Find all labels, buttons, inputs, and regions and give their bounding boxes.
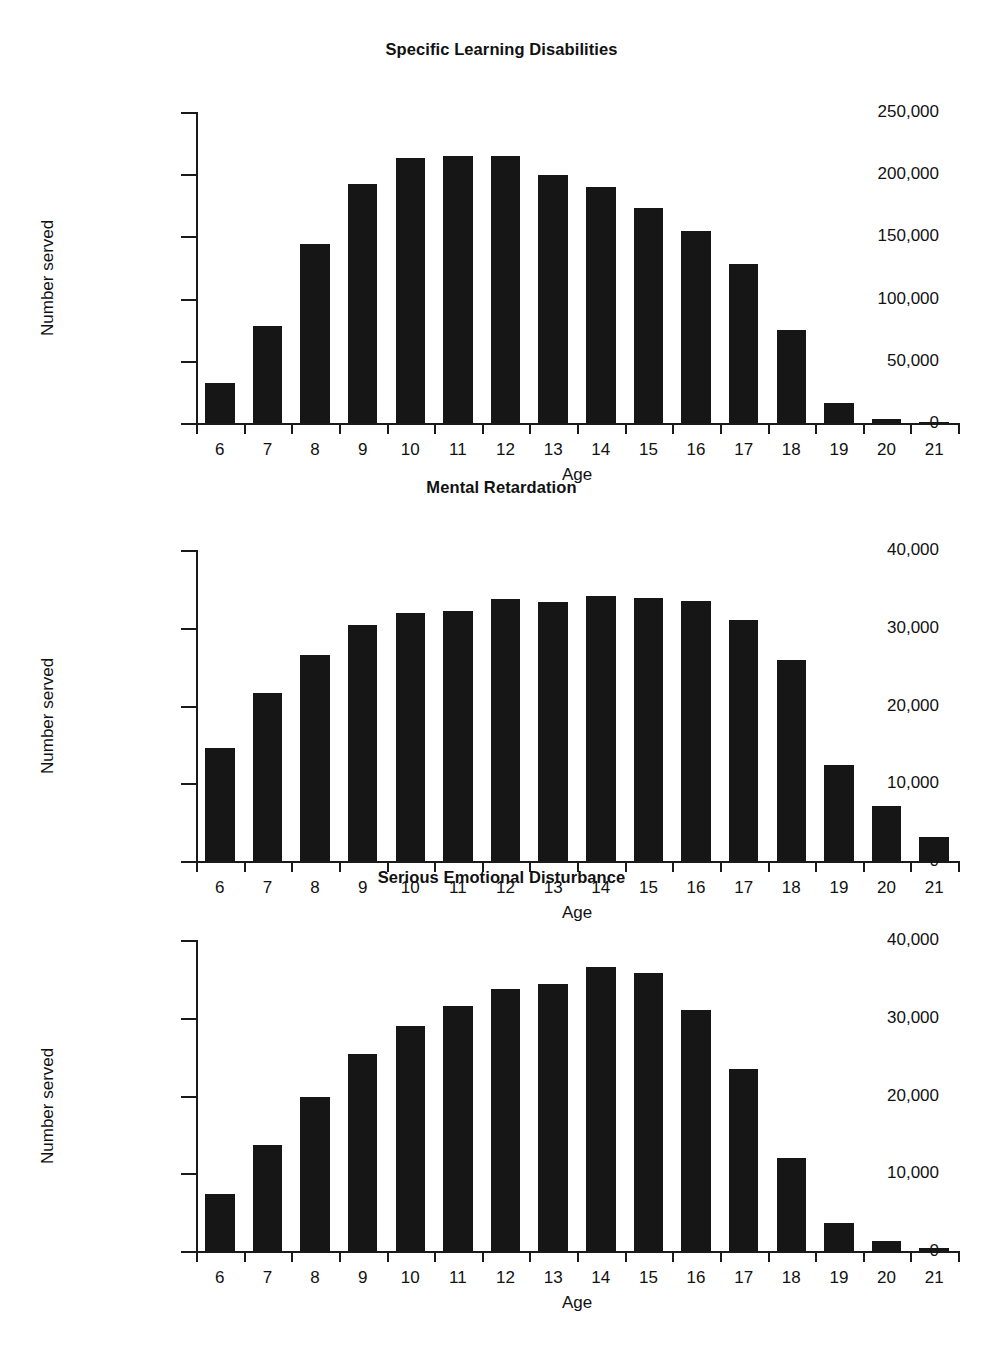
- bar: [872, 419, 902, 423]
- bar: [253, 693, 283, 861]
- x-axis-tick-label: 15: [639, 1268, 658, 1288]
- bars-layer: [196, 940, 958, 1251]
- bar: [681, 601, 711, 861]
- x-axis-tick: [244, 1251, 246, 1262]
- chart-title: Mental Retardation: [0, 478, 1003, 497]
- y-axis-tick: [181, 1096, 196, 1098]
- x-axis-tick: [720, 1251, 722, 1262]
- x-axis-tick-label: 10: [401, 440, 420, 460]
- x-axis-tick-label: 13: [544, 440, 563, 460]
- y-axis-label: Number served: [38, 1047, 58, 1163]
- x-axis-tick: [910, 423, 912, 434]
- y-axis-tick: [181, 236, 196, 238]
- bar: [586, 596, 616, 861]
- x-axis-tick-label: 8: [310, 440, 319, 460]
- x-axis-tick: [625, 423, 627, 434]
- x-axis-tick: [768, 423, 770, 434]
- x-axis-tick-label: 9: [358, 1268, 367, 1288]
- bar: [824, 403, 854, 423]
- x-axis-tick-label: 13: [544, 1268, 563, 1288]
- bar: [919, 837, 949, 861]
- x-axis-tick-label: 18: [782, 440, 801, 460]
- bar: [919, 1248, 949, 1251]
- chart-panel: Specific Learning DisabilitiesNumber ser…: [0, 40, 1003, 493]
- x-axis-tick: [529, 423, 531, 434]
- x-axis-tick-label: 12: [496, 440, 515, 460]
- x-axis-tick: [387, 1251, 389, 1262]
- bar: [729, 1069, 759, 1251]
- bar: [348, 1054, 378, 1251]
- x-axis-tick-label: 8: [310, 1268, 319, 1288]
- x-axis-tick: [958, 1251, 960, 1262]
- bar: [205, 383, 235, 423]
- x-axis-tick-label: 18: [782, 1268, 801, 1288]
- bar: [396, 1026, 426, 1251]
- x-axis-tick-label: 17: [734, 1268, 753, 1288]
- y-axis-tick: [181, 861, 196, 863]
- bar: [824, 765, 854, 861]
- x-axis-tick: [577, 1251, 579, 1262]
- x-axis-tick-label: 16: [687, 1268, 706, 1288]
- x-axis-tick-label: 15: [639, 440, 658, 460]
- bar: [586, 187, 616, 423]
- bar: [777, 330, 807, 423]
- chart-title: Serious Emotional Disturbance: [0, 868, 1003, 887]
- y-axis-tick: [181, 112, 196, 114]
- bar: [443, 156, 473, 423]
- chart-panel: Mental RetardationNumber served010,00020…: [0, 478, 1003, 931]
- x-axis-tick: [958, 423, 960, 434]
- x-axis-tick: [387, 423, 389, 434]
- bar: [300, 655, 330, 861]
- x-axis-tick: [863, 1251, 865, 1262]
- x-axis-tick: [434, 423, 436, 434]
- figure-three-panel-bar-charts: Specific Learning DisabilitiesNumber ser…: [0, 0, 1003, 1355]
- bar: [253, 326, 283, 423]
- y-axis-tick: [181, 423, 196, 425]
- x-axis-tick: [291, 1251, 293, 1262]
- bar: [872, 1241, 902, 1251]
- bar: [729, 264, 759, 423]
- x-axis-tick: [244, 423, 246, 434]
- bar: [919, 422, 949, 423]
- plot-area: 010,00020,00030,00040,000678910111213141…: [196, 940, 958, 1251]
- x-axis-tick-label: 14: [591, 1268, 610, 1288]
- bar: [634, 973, 664, 1251]
- x-axis-tick-label: 12: [496, 1268, 515, 1288]
- bar: [443, 1006, 473, 1251]
- bar: [300, 244, 330, 423]
- y-axis-tick: [181, 628, 196, 630]
- bar: [824, 1223, 854, 1251]
- x-axis-tick-label: 20: [877, 1268, 896, 1288]
- x-axis-tick: [768, 1251, 770, 1262]
- bar: [538, 984, 568, 1251]
- bar: [681, 231, 711, 423]
- x-axis-tick-label: 11: [449, 1268, 467, 1288]
- x-axis-tick: [815, 423, 817, 434]
- chart-title: Specific Learning Disabilities: [0, 40, 1003, 59]
- bar: [872, 806, 902, 861]
- bar: [396, 613, 426, 861]
- x-axis-tick-label: 16: [687, 440, 706, 460]
- x-axis-tick-label: 7: [263, 1268, 272, 1288]
- bar: [586, 967, 616, 1251]
- bar: [491, 599, 521, 861]
- bar: [348, 625, 378, 861]
- x-axis-tick: [815, 1251, 817, 1262]
- y-axis-tick: [181, 1018, 196, 1020]
- bar: [205, 1194, 235, 1251]
- bar: [729, 620, 759, 861]
- bar: [300, 1097, 330, 1251]
- x-axis-tick-label: 6: [215, 440, 224, 460]
- bars-layer: [196, 550, 958, 861]
- bar: [491, 156, 521, 423]
- x-axis-tick: [339, 423, 341, 434]
- x-axis-tick-label: 20: [877, 440, 896, 460]
- x-axis-tick-label: 6: [215, 1268, 224, 1288]
- x-axis-tick-label: 17: [734, 440, 753, 460]
- y-axis-tick: [181, 550, 196, 552]
- bar: [348, 184, 378, 423]
- x-axis-tick: [625, 1251, 627, 1262]
- x-axis-tick-label: 21: [925, 440, 944, 460]
- x-axis-tick: [339, 1251, 341, 1262]
- x-axis-tick: [720, 423, 722, 434]
